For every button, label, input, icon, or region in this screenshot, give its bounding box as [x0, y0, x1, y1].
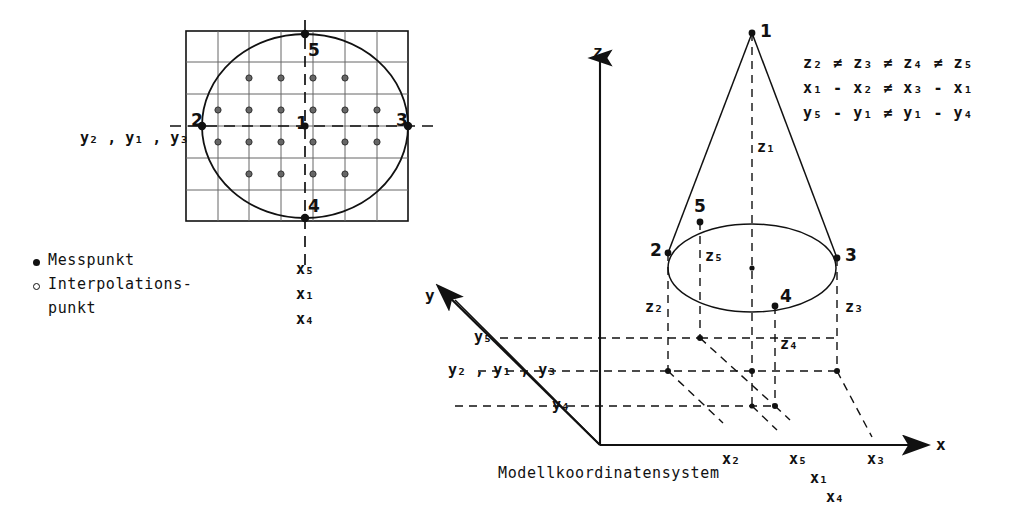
legend-label-interpolationspunkt-cont: punkt	[48, 301, 96, 316]
plan-center-lines	[170, 20, 440, 268]
plan-point-label-3: 3	[396, 112, 408, 129]
x-tick-label-x4: x₄	[826, 490, 844, 505]
axis-label-z: z	[593, 44, 603, 60]
plan-point-label-1: 1	[296, 115, 308, 132]
equation-x: x₁ - x₂ ≠ x₃ - x₁	[803, 81, 974, 96]
x-tick-label-x3: x₃	[867, 452, 885, 467]
cone-point-label-3: 3	[845, 247, 857, 264]
plan-point-label-4: 4	[308, 198, 320, 215]
legend-label-messpunkt: Messpunkt	[48, 253, 135, 268]
plan-x-label-x1: x₁	[296, 287, 314, 302]
legend-open-dot-icon	[33, 283, 40, 290]
equation-y: y₅ - y₁ ≠ y₁ - y₄	[803, 106, 974, 121]
legend-label-interpolationspunkt: Interpolations-	[48, 277, 192, 292]
plan-point-label-2: 2	[191, 112, 203, 129]
plan-y-axis-label: y₂ , y₁ , y₃	[62, 116, 188, 146]
cone-apex-label-1: 1	[760, 23, 772, 40]
figure-vector-layer	[0, 0, 1029, 509]
equation-z: z₂ ≠ z₃ ≠ z₄ ≠ z₅	[803, 56, 974, 71]
plan-point-label-5: 5	[308, 42, 320, 59]
height-label-z5: z₅	[705, 249, 723, 264]
y-tick-label-y4: y₄	[552, 398, 570, 413]
height-label-z4: z₄	[780, 337, 798, 352]
cone-point-label-4: 4	[780, 288, 792, 305]
ground-plane-dashed-grid	[455, 338, 872, 437]
axis-label-x: x	[936, 437, 946, 453]
axis-label-y: y	[425, 288, 435, 304]
cone-point-label-2: 2	[650, 242, 662, 259]
x-tick-label-x1: x₁	[810, 471, 828, 486]
y-tick-label-y5: y₅	[474, 330, 492, 345]
plan-x-label-x5: x₅	[296, 262, 314, 277]
height-label-z1: z₁	[757, 140, 775, 155]
legend-filled-dot-icon	[33, 259, 40, 266]
figure-root: y₂ , y₁ , y₃ 1 2 3 4 5 x₅ x₁ x₄ Messpunk…	[0, 0, 1029, 509]
y-tick-label-y2-y1-y3: y₂ , y₁ , y₃	[448, 363, 556, 378]
x-tick-label-x5: x₅	[789, 452, 807, 467]
figure-caption: Modellkoordinatensystem	[498, 466, 720, 481]
x-tick-label-x2: x₂	[722, 452, 740, 467]
cone-point-label-5: 5	[694, 198, 706, 215]
plan-x-label-x4: x₄	[296, 312, 314, 327]
height-label-z2: z₂	[645, 300, 663, 315]
height-label-z3: z₃	[845, 300, 863, 315]
